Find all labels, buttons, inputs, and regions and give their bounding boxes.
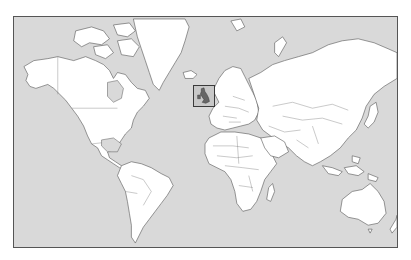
uk-highlight-box — [193, 85, 215, 107]
iceland — [183, 71, 197, 79]
world-map — [13, 16, 398, 248]
arctic-islands — [74, 23, 140, 59]
south-america — [117, 162, 173, 243]
greenland — [133, 19, 189, 90]
new-zealand — [390, 215, 397, 233]
novaya-zemlya — [275, 37, 287, 57]
world-map-svg — [14, 17, 397, 247]
uk-map-icon — [194, 86, 214, 106]
europe — [209, 67, 259, 130]
svalbard — [231, 19, 245, 31]
tasmania — [368, 229, 372, 233]
australia — [340, 184, 386, 226]
north-america — [24, 57, 149, 170]
indonesia — [322, 156, 378, 182]
madagascar — [267, 184, 275, 202]
